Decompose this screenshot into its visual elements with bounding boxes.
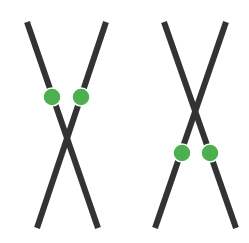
chromosome-pair-left [27,22,106,228]
chromatid-line [27,22,98,228]
chromatid-line [155,22,226,228]
chromatid-line [37,22,106,228]
marker-dot [72,88,90,106]
marker-dot [173,144,191,162]
chromatid-line [164,22,236,228]
marker-dot [201,144,219,162]
diagram-svg [0,0,249,243]
chromosome-diagram [0,0,249,243]
chromosome-pair-right [155,22,236,228]
marker-dot [43,88,61,106]
